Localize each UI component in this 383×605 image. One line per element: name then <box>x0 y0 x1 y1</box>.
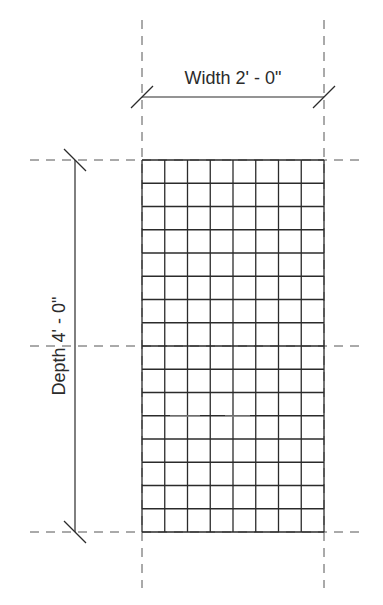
width-label: Width 2' - 0" <box>185 68 282 88</box>
depth-label: Depth 4' - 0" <box>49 297 69 396</box>
drawing-canvas: Width 2' - 0" Depth 4' - 0" <box>0 0 383 605</box>
panel-grid <box>142 160 324 532</box>
width-dimension <box>131 86 335 108</box>
